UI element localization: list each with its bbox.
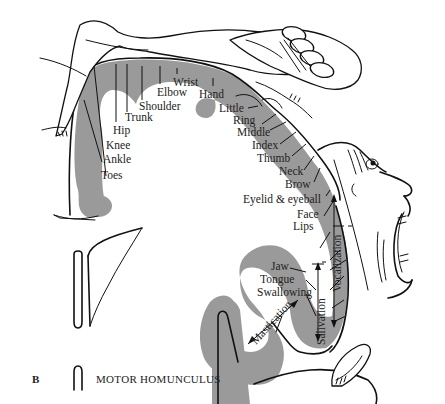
label-knee: Knee [106, 139, 130, 151]
label-trunk: Trunk [125, 111, 153, 123]
label-hand: Hand [199, 88, 224, 100]
label-wrist: Wrist [173, 76, 199, 88]
panel-label: B [32, 373, 40, 385]
label-brow: Brow [285, 178, 311, 190]
label-ankle: Ankle [103, 153, 131, 165]
label-index: Index [252, 139, 278, 151]
label-shoulder: Shoulder [139, 100, 181, 112]
label-hip: Hip [113, 124, 131, 137]
label-face: Face [297, 208, 319, 220]
label-toes: Toes [101, 169, 123, 181]
label-neck: Neck [279, 165, 304, 177]
label-swallowing: Swallowing [257, 286, 312, 299]
label-tongue: Tongue [260, 273, 294, 286]
label-jaw: Jaw [271, 260, 290, 272]
label-thumb: Thumb [257, 152, 290, 164]
label-middle: Middle [237, 126, 270, 138]
label-little: Little [219, 102, 244, 114]
caption-title: MOTOR HOMUNCULUS [96, 373, 221, 385]
label-salivation: Salivation [315, 298, 327, 345]
orientation-sketch [74, 228, 142, 390]
label-eyelid-eyeball: Eyelid & eyeball [243, 193, 321, 206]
label-vocalization: Vocalization [331, 234, 343, 292]
label-lips: Lips [293, 220, 314, 233]
homunculus-tongue-illustration [332, 344, 371, 386]
motor-homunculus-diagram: Toes Ankle Knee Hip Trunk Shoulder Elbow… [0, 0, 445, 404]
figure-caption: B MOTOR HOMUNCULUS [32, 373, 221, 385]
